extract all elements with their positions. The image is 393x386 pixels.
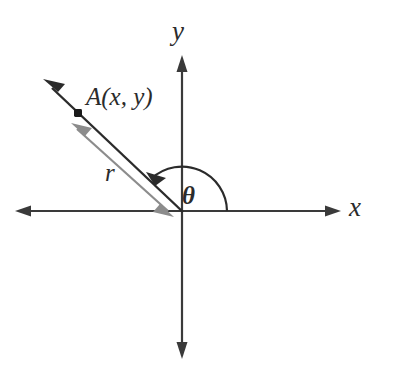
x-axis-right-arrowhead bbox=[325, 206, 341, 217]
point-a-marker bbox=[74, 109, 82, 117]
radius-r-label: r bbox=[105, 160, 115, 185]
y-axis-bottom-arrowhead bbox=[177, 342, 188, 359]
y-axis-label: y bbox=[172, 18, 184, 45]
radius-arrow-shaft bbox=[77, 129, 168, 211]
polar-coordinate-figure: y x θ r A(x, y) bbox=[0, 0, 393, 386]
x-axis-left-arrowhead bbox=[15, 206, 31, 217]
x-axis-label: x bbox=[349, 194, 361, 221]
y-axis-top-arrowhead bbox=[177, 55, 188, 72]
angle-theta-label: θ bbox=[182, 183, 195, 208]
coordinate-diagram-canvas bbox=[0, 0, 393, 386]
point-a-label: A(x, y) bbox=[86, 84, 153, 109]
